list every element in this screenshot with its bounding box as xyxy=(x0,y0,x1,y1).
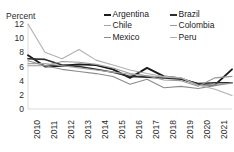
chart-legend: ArgentinaBrazilChileColombiaMexicoPeru xyxy=(104,9,234,44)
y-axis-ticks: 024681012 xyxy=(8,0,24,152)
legend-item-peru[interactable]: Peru xyxy=(170,32,234,43)
legend-swatch-icon xyxy=(170,25,177,26)
y-tick-label: 12 xyxy=(8,19,24,29)
y-tick-label: 8 xyxy=(8,47,24,57)
y-tick-label: 6 xyxy=(8,62,24,72)
legend-item-mexico[interactable]: Mexico xyxy=(104,32,168,43)
legend-label: Chile xyxy=(113,20,132,31)
legend-item-brazil[interactable]: Brazil xyxy=(170,9,234,20)
x-tick-label: 2017 xyxy=(151,120,161,139)
y-tick-label: 2 xyxy=(8,90,24,100)
x-tick-label: 2018 xyxy=(168,120,178,139)
x-tick-label: 2013 xyxy=(83,120,93,139)
x-axis-ticks: 2010201120122013201420152016201720182019… xyxy=(28,111,232,152)
legend-label: Peru xyxy=(179,32,197,43)
x-tick-label: 2011 xyxy=(49,121,59,139)
legend-item-chile[interactable]: Chile xyxy=(104,20,168,31)
legend-swatch-icon xyxy=(104,14,111,16)
y-tick-label: 10 xyxy=(8,33,24,43)
x-tick-label: 2021 xyxy=(219,120,229,139)
legend-item-argentina[interactable]: Argentina xyxy=(104,9,168,20)
legend-label: Mexico xyxy=(113,32,140,43)
legend-swatch-icon xyxy=(104,25,111,26)
x-tick-label: 2014 xyxy=(100,120,110,139)
legend-swatch-icon xyxy=(170,14,177,16)
x-tick-label: 2012 xyxy=(66,120,76,139)
legend-label: Brazil xyxy=(179,9,200,20)
x-tick-label: 2016 xyxy=(134,120,144,139)
legend-item-colombia[interactable]: Colombia xyxy=(170,20,234,31)
x-tick-label: 2020 xyxy=(202,120,212,139)
legend-label: Colombia xyxy=(179,20,215,31)
series-line-chile xyxy=(28,64,232,86)
y-tick-label: 0 xyxy=(8,104,24,114)
y-tick-label: 4 xyxy=(8,76,24,86)
legend-swatch-icon xyxy=(104,37,111,38)
x-tick-label: 2019 xyxy=(185,120,195,139)
legend-label: Argentina xyxy=(113,9,149,20)
line-chart: Percent 024681012 2010201120122013201420… xyxy=(0,0,234,152)
legend-swatch-icon xyxy=(170,37,177,38)
x-tick-label: 2010 xyxy=(32,120,42,139)
x-tick-label: 2015 xyxy=(117,120,127,139)
